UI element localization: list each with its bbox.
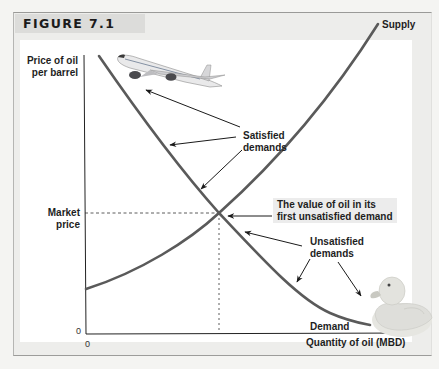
unsatisfied-line1: Unsatisfied [310,236,364,248]
rubber-duck-icon [370,277,432,337]
unsatisfied-demands-label: Unsatisfied demands [310,236,364,259]
y-axis-label-line2: per barrel [20,67,78,79]
satisfied-line2: demands [243,142,287,154]
satisfied-demands-label: Satisfied demands [243,130,287,153]
airplane-icon [118,55,225,87]
market-price-line2: price [20,219,80,231]
market-price-line1: Market [20,207,80,219]
y-axis [84,55,86,334]
first-unsatisfied-demand-label: The value of oil in its first unsatisfie… [273,198,397,223]
y-origin-label: 0 [76,326,81,336]
value-line2: first unsatisfied demand [277,211,393,223]
x-axis [86,333,412,334]
demand-label: Demand [310,321,349,333]
supply-label: Supply [382,19,415,31]
unsatisfied-line2: demands [310,248,364,260]
y-axis-label-line1: Price of oil [20,55,78,67]
x-origin-label: 0 [85,339,90,349]
value-line1: The value of oil in its [277,199,393,211]
demand-curve [99,56,370,325]
satisfied-line1: Satisfied [243,130,287,142]
market-price-label: Market price [20,207,80,230]
x-axis-label: Quantity of oil (MBD) [306,337,405,349]
y-axis-label: Price of oil per barrel [20,55,78,78]
